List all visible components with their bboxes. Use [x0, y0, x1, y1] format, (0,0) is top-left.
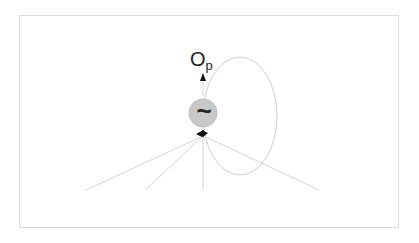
output-label: Op: [190, 48, 213, 73]
input-lines: [86, 137, 319, 190]
output-arrow-icon: [200, 73, 206, 81]
input-line: [145, 137, 202, 190]
input-line: [86, 137, 201, 190]
node-symbol: ~: [192, 98, 216, 124]
